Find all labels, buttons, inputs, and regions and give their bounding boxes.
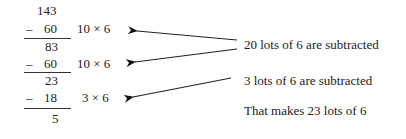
arrow-icon	[135, 49, 237, 62]
conclusion-text: That makes 23 lots of 6	[244, 104, 366, 118]
arrows	[0, 0, 406, 139]
arrow-icon	[133, 78, 231, 97]
annotation-3-lots: 3 lots of 6 are subtracted	[244, 74, 372, 88]
annotation-20-lots: 20 lots of 6 are subtracted	[244, 38, 379, 52]
arrow-icon	[137, 31, 237, 40]
